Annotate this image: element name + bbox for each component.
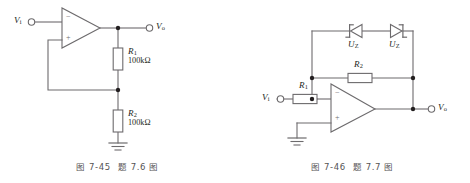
node-inverting-input xyxy=(310,97,314,101)
opamp-inverting-sign: − xyxy=(335,88,340,97)
resistor-r2-body xyxy=(348,73,372,82)
node-output xyxy=(116,26,120,30)
node-feedback-right xyxy=(411,76,415,80)
terminal-input-vi xyxy=(28,19,34,25)
figure-page: Vi Vo − + R1 100kΩ R2 100kΩ 图 7-45题 7.6 … xyxy=(0,0,470,183)
terminal-output-vo xyxy=(146,25,152,31)
caption-suffix: 题 7.6 图 xyxy=(118,162,159,172)
zener-1-triangle xyxy=(351,25,363,38)
label-output-vo: Vo xyxy=(438,103,447,113)
schematic-inverting-amplifier-zener xyxy=(235,0,470,160)
figure-7-46: Vi Vo − + R1 R2 UZ UZ 图 7-46题 7.7 图 xyxy=(235,0,470,183)
terminal-input-vi xyxy=(277,96,283,102)
node-feedback-left xyxy=(310,76,314,80)
label-output-vo: Vo xyxy=(156,22,165,32)
caption-suffix: 题 7.7 图 xyxy=(353,162,394,172)
label-resistor-r1: R1 xyxy=(299,81,308,91)
wire-feedback xyxy=(48,40,118,90)
label-zener-1-uz: UZ xyxy=(348,40,359,50)
label-input-vi: Vi xyxy=(262,93,270,103)
label-input-vi: Vi xyxy=(14,16,22,26)
zener-2-triangle xyxy=(391,25,403,38)
node-feedback xyxy=(116,88,120,92)
caption-figure-7-46: 图 7-46题 7.7 图 xyxy=(235,160,470,172)
resistor-r2-body xyxy=(113,110,123,132)
opamp-inverting-sign: − xyxy=(66,12,71,21)
figure-7-45: Vi Vo − + R1 100kΩ R2 100kΩ 图 7-45题 7.6 … xyxy=(0,0,235,183)
label-zener-2-uz: UZ xyxy=(389,40,400,50)
caption-prefix: 图 7-45 xyxy=(76,162,111,172)
label-resistor-r2: R2 xyxy=(354,60,363,70)
resistor-r1-body xyxy=(113,48,123,70)
opamp-noninverting-sign: + xyxy=(66,33,71,42)
caption-figure-7-45: 图 7-45题 7.6 图 xyxy=(0,160,235,172)
opamp-noninverting-sign: + xyxy=(335,113,340,122)
label-resistor-r1: R1 100kΩ xyxy=(128,47,150,65)
terminal-output-vo xyxy=(428,106,434,112)
node-output xyxy=(411,107,415,111)
caption-prefix: 图 7-46 xyxy=(311,162,346,172)
label-resistor-r2: R2 100kΩ xyxy=(128,109,150,127)
schematic-noninverting-amplifier xyxy=(0,0,235,160)
